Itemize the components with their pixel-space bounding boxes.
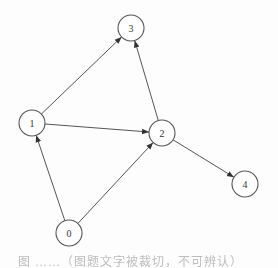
node-label: 0: [67, 228, 72, 239]
edge-1-to-3: [41, 37, 121, 114]
node-0: 0: [56, 220, 82, 246]
edge-0-to-1: [36, 135, 65, 220]
node-2: 2: [149, 120, 175, 146]
node-label: 3: [129, 23, 134, 34]
edge-2-to-3: [135, 40, 159, 120]
edge-1-to-2: [45, 124, 149, 132]
node-label: 2: [160, 128, 165, 139]
node-label: 4: [243, 179, 248, 190]
node-1: 1: [19, 110, 45, 136]
node-3: 3: [118, 15, 144, 41]
edge-2-to-4: [173, 140, 234, 177]
node-4: 4: [232, 171, 258, 197]
nodes-group: 01234: [19, 15, 258, 246]
node-label: 1: [30, 118, 35, 129]
edges-group: [36, 37, 234, 223]
figure-caption: 图 ……（图题文字被裁切，不可辨认）: [18, 252, 278, 268]
edge-0-to-2: [78, 143, 153, 224]
